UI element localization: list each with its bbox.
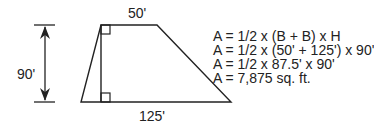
formula-line: A = 1/2 x 87.5' x 90' — [213, 57, 374, 71]
area-formula: A = 1/2 x (B + B) x H A = 1/2 x (50' + 1… — [213, 29, 374, 85]
bottom-base-label: 125' — [139, 109, 165, 123]
height-dimension-arrow — [34, 25, 55, 102]
formula-line: A = 1/2 x (B + B) x H — [213, 29, 374, 43]
trapezoid-outline — [81, 25, 231, 102]
top-base-label: 50' — [128, 6, 146, 20]
right-angle-marker-top — [101, 25, 110, 34]
formula-line: A = 1/2 x (50' + 125') x 90' — [213, 43, 374, 57]
formula-line: A = 7,875 sq. ft. — [213, 71, 374, 85]
height-label: 90' — [17, 67, 35, 81]
right-angle-marker-bottom — [101, 93, 110, 102]
